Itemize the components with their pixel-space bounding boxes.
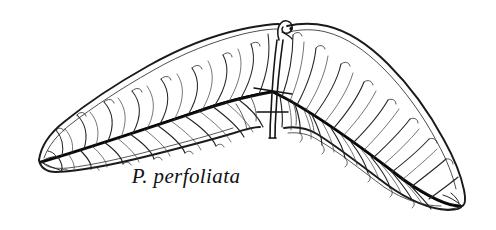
left-blade-lower-veins [58,99,263,171]
tendril-tip-dot [289,27,292,30]
figure-caption: P. perfoliata [0,164,434,189]
tendril-hook [278,21,293,40]
right-blade-lower-veins [280,96,431,209]
left-blade-upper-margin [39,24,279,160]
figure-page: P. perfoliata [0,0,496,230]
leaf-illustration [0,0,496,230]
left-blade-upper-margin-inner [44,29,277,158]
right-midrib-highlight [274,93,459,206]
left-blade-upper-veins [56,34,269,156]
right-blade-upper-veins-secondary [290,42,437,180]
central-petiole [254,40,292,138]
left-blade-lower-margin-inner [43,128,233,168]
right-blade-margin-scallops [293,32,453,164]
left-blade-margin-scallops [56,42,260,131]
left-leaf-blade [39,24,279,172]
